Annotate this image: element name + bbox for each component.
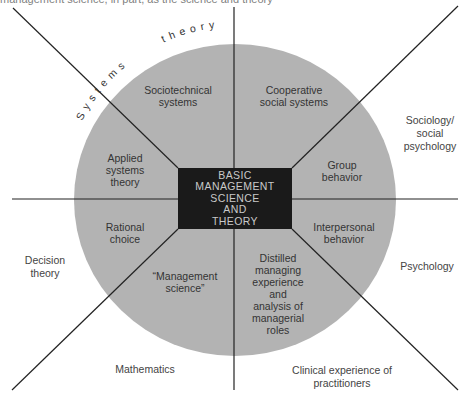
sector-cooperative-social-systems: Cooperative social systems [244, 84, 344, 108]
sector-distilled-managing-experience: Distilled managing experience and analys… [238, 252, 318, 336]
discipline-psychology: Psychology [392, 260, 462, 273]
sector-interpersonal-behavior: Interpersonal behavior [296, 221, 392, 245]
sector-applied-systems-theory: Applied systems theory [90, 152, 160, 188]
discipline-sociology: Sociology/ social psychology [390, 114, 470, 153]
arc-label-theory: t h e o r y [159, 18, 216, 45]
center-box-label: BASIC MANAGEMENT SCIENCE AND THEORY [178, 168, 292, 229]
sector-group-behavior: Group behavior [302, 159, 382, 183]
sector-management-science: “Management science” [140, 270, 230, 294]
discipline-clinical-experience: Clinical experience of practitioners [262, 364, 422, 390]
discipline-mathematics: Mathematics [100, 363, 190, 376]
sector-rational-choice: Rational choice [90, 221, 160, 245]
discipline-decision-theory: Decision theory [10, 254, 80, 280]
sector-sociotechnical-systems: Sociotechnical systems [128, 84, 228, 108]
